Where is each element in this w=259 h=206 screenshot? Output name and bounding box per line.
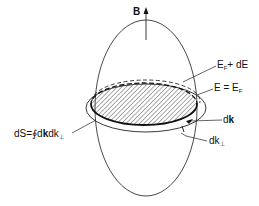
leader-ef-de [183,66,216,82]
label-area-prefix: dS=∮d [14,128,43,139]
label-ef-plus-de-main: E [217,59,224,70]
label-e-equals-ef: E = EF [214,83,242,94]
label-dk: dk [223,115,234,125]
leader-dk [190,120,222,121]
label-area-sub: ⊥ [59,134,64,140]
arrow-up-icon [144,7,149,14]
label-dk-bold: k [229,114,235,125]
label-e-equals-ef-main: E = E [214,82,239,93]
label-e-equals-ef-sub: F [239,88,243,94]
label-ef-plus-de-rest: + dE [227,59,248,70]
fermi-surface-diagram [0,0,259,206]
label-area-rest: dk [48,128,59,139]
label-field-b: B [133,7,140,17]
label-dk-perp: dk⊥ [209,136,225,147]
label-area-element: dS=∮dkdk⊥ [14,129,64,140]
leader-e-ef [197,89,213,95]
label-dk-perp-sub: ⊥ [220,141,225,147]
label-dk-perp-main: dk [209,135,220,146]
label-ef-plus-de: EF+ dE [217,60,248,71]
leader-ds [72,120,96,133]
